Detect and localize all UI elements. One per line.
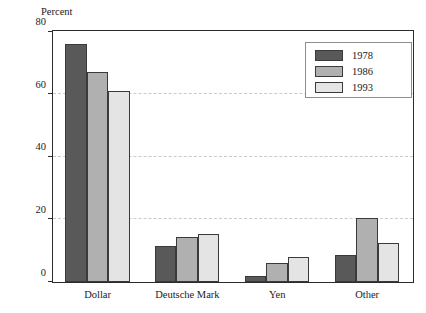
legend-swatch-1986 <box>315 66 343 77</box>
x-axis-label: Deutsche Mark <box>155 289 219 300</box>
bar <box>198 234 220 283</box>
bar <box>288 257 310 282</box>
bar <box>378 243 400 282</box>
bar <box>155 246 177 282</box>
legend-item[interactable]: 1986 <box>315 64 411 79</box>
y-tick-label: 40 <box>36 141 47 152</box>
legend-swatch-1978 <box>315 50 343 61</box>
bar <box>108 91 130 282</box>
bar <box>176 237 198 282</box>
y-tick-label: 0 <box>41 266 46 277</box>
bar <box>266 263 288 282</box>
bar <box>356 218 378 282</box>
x-axis-label: Yen <box>269 289 285 300</box>
y-tick-label: 80 <box>36 16 47 27</box>
bar-chart: Percent 020406080 DollarDeutsche MarkYen… <box>0 0 426 313</box>
legend-item[interactable]: 1978 <box>315 48 411 63</box>
bar <box>335 255 357 282</box>
x-axis-label: Dollar <box>84 289 111 300</box>
legend-label-1993: 1993 <box>352 82 373 93</box>
y-tick-label: 60 <box>36 78 47 89</box>
bar <box>65 44 87 282</box>
bar <box>245 276 267 282</box>
bar <box>87 72 109 282</box>
legend-swatch-1993 <box>315 82 343 93</box>
legend: 1978 1986 1993 <box>305 42 412 98</box>
legend-label-1978: 1978 <box>352 50 373 61</box>
x-axis-label: Other <box>355 289 379 300</box>
legend-item[interactable]: 1993 <box>315 80 411 95</box>
legend-label-1986: 1986 <box>352 66 373 77</box>
y-tick-label: 20 <box>36 203 47 214</box>
